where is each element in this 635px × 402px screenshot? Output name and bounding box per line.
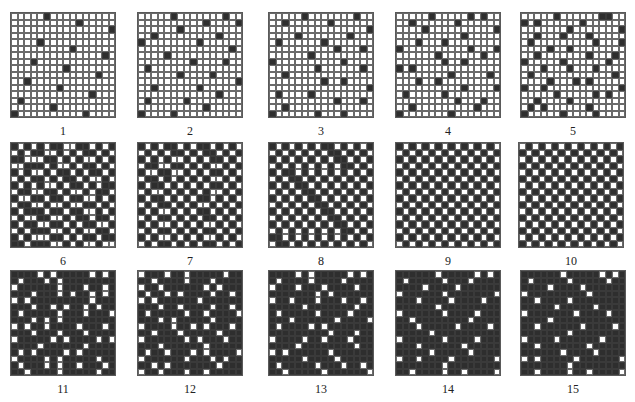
pattern-label: 7 bbox=[137, 254, 243, 269]
light-cell bbox=[494, 111, 501, 118]
pattern-panel-9: 9 bbox=[395, 142, 503, 248]
pattern-label: 9 bbox=[395, 254, 501, 269]
pattern-panel-8: 8 bbox=[268, 142, 376, 248]
pattern-label: 2 bbox=[137, 124, 243, 139]
dark-cell bbox=[494, 241, 501, 248]
pattern-grid bbox=[137, 12, 243, 118]
pattern-label: 4 bbox=[395, 124, 501, 139]
pattern-grid bbox=[395, 12, 501, 118]
light-cell bbox=[617, 241, 624, 248]
pattern-label: 14 bbox=[395, 382, 501, 397]
pattern-label: 13 bbox=[268, 382, 374, 397]
dark-cell bbox=[236, 369, 243, 376]
pattern-grid bbox=[520, 12, 626, 118]
pattern-grid bbox=[268, 12, 374, 118]
pattern-label: 15 bbox=[520, 382, 626, 397]
pattern-panel-12: 12 bbox=[137, 270, 245, 376]
pattern-grid bbox=[518, 142, 624, 248]
light-cell bbox=[494, 369, 501, 376]
pattern-label: 8 bbox=[268, 254, 374, 269]
pattern-panel-7: 7 bbox=[137, 142, 245, 248]
pattern-panel-1: 1 bbox=[10, 12, 118, 118]
pattern-grid bbox=[137, 270, 243, 376]
pattern-grid bbox=[10, 270, 116, 376]
pattern-grid bbox=[10, 12, 116, 118]
pattern-grid bbox=[395, 270, 501, 376]
light-cell bbox=[619, 111, 626, 118]
dark-cell bbox=[236, 241, 243, 248]
pattern-panel-13: 13 bbox=[268, 270, 376, 376]
pattern-label: 10 bbox=[518, 254, 624, 269]
pattern-grid bbox=[520, 270, 626, 376]
pattern-label: 5 bbox=[520, 124, 626, 139]
pattern-panel-14: 14 bbox=[395, 270, 503, 376]
light-cell bbox=[109, 111, 116, 118]
pattern-label: 3 bbox=[268, 124, 374, 139]
pattern-panel-4: 4 bbox=[395, 12, 503, 118]
pattern-panel-5: 5 bbox=[520, 12, 628, 118]
pattern-label: 12 bbox=[137, 382, 243, 397]
pattern-grid bbox=[268, 270, 374, 376]
light-cell bbox=[367, 241, 374, 248]
pattern-grid bbox=[10, 142, 116, 248]
pattern-grid bbox=[395, 142, 501, 248]
light-cell bbox=[367, 111, 374, 118]
pattern-panel-11: 11 bbox=[10, 270, 118, 376]
dark-cell bbox=[109, 369, 116, 376]
pattern-panel-15: 15 bbox=[520, 270, 628, 376]
pattern-panel-6: 6 bbox=[10, 142, 118, 248]
pattern-panel-10: 10 bbox=[518, 142, 626, 248]
light-cell bbox=[619, 369, 626, 376]
light-cell bbox=[367, 369, 374, 376]
pattern-label: 6 bbox=[10, 254, 116, 269]
pattern-grid bbox=[137, 142, 243, 248]
pattern-label: 11 bbox=[10, 382, 116, 397]
light-cell bbox=[236, 111, 243, 118]
pattern-panel-3: 3 bbox=[268, 12, 376, 118]
pattern-grid bbox=[268, 142, 374, 248]
light-cell bbox=[109, 241, 116, 248]
pattern-label: 1 bbox=[10, 124, 116, 139]
pattern-panel-2: 2 bbox=[137, 12, 245, 118]
